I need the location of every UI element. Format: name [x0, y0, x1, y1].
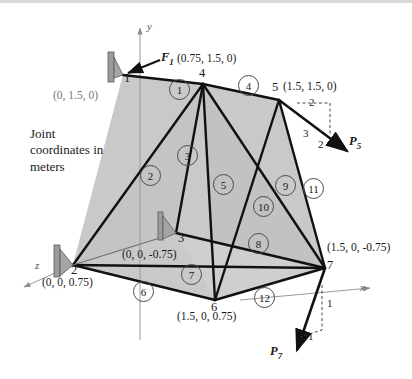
- member-label-8: 8: [248, 233, 269, 254]
- member-label-11: 11: [303, 178, 324, 199]
- note-line-3: meters: [30, 159, 65, 174]
- force-F1-arrow: [128, 60, 160, 73]
- joint-number-3: 3: [178, 231, 184, 246]
- z-axis-label: z: [35, 259, 39, 271]
- member-label-6: 6: [133, 281, 154, 302]
- slope-label-p5-horizontal: 2: [309, 96, 315, 108]
- member-label-3: 3: [177, 145, 198, 166]
- joint-coords-2: (0, 0, 0.75): [42, 276, 93, 288]
- joint-coords-5: (1.5, 1.5, 0): [283, 80, 337, 92]
- joint-coords-7: (1.5, 0, -0.75): [327, 241, 390, 253]
- member-label-1: 1: [169, 79, 190, 100]
- support-joint-1: [108, 52, 123, 82]
- member-label-5: 5: [213, 174, 234, 195]
- joint-number-5: 5: [272, 80, 278, 95]
- slope-label-p7-horizontal: 1: [308, 330, 314, 342]
- joint-number-4: 4: [199, 66, 205, 81]
- member-label-7: 7: [181, 264, 202, 285]
- force-label-P7: P7: [270, 344, 282, 361]
- force-subscript-7: 7: [278, 351, 283, 361]
- joint-coords-4: (0.75, 1.5, 0): [177, 52, 236, 64]
- slope-label-p5-depth: 2: [318, 138, 324, 150]
- force-label-F1: F1: [161, 50, 174, 67]
- note-text: Joint coordinates in meters: [30, 126, 103, 175]
- joint-coords-1: (0, 1.5, 0): [53, 89, 98, 101]
- member-label-10: 10: [253, 196, 274, 217]
- y-axis-label: y: [147, 20, 152, 32]
- force-symbol-P5: P: [349, 134, 357, 148]
- slope-label-p5-vertical: 3: [303, 127, 309, 139]
- force-label-P5: P5: [349, 134, 361, 151]
- joint-number-7: 7: [327, 258, 333, 273]
- note-line-2: coordinates in: [30, 142, 103, 157]
- joint-number-1: 1: [124, 71, 130, 86]
- joint-coords-6: (1.5, 0, 0.75): [177, 310, 236, 322]
- member-label-4: 4: [238, 75, 259, 96]
- x-axis-label: x: [360, 281, 365, 293]
- member-label-2: 2: [140, 165, 161, 186]
- joint-coords-3: (0, 0, -0.75): [122, 248, 177, 260]
- force-subscript-1: 1: [169, 57, 174, 67]
- force-subscript-5: 5: [357, 141, 362, 151]
- member-label-12: 12: [254, 287, 275, 308]
- slope-label-p7-vertical: 1: [327, 297, 333, 309]
- member-label-9: 9: [275, 175, 296, 196]
- force-symbol-P7: P: [270, 344, 278, 358]
- truss-figure: y x z Joint coordinates in meters 1 2 3 …: [0, 0, 412, 379]
- note-line-1: Joint: [30, 126, 55, 141]
